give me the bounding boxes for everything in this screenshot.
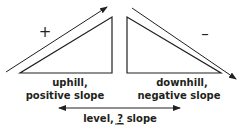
downhill-label-line2: negative slope <box>138 90 221 101</box>
uphill-label-line1: uphill, <box>52 77 87 88</box>
negative-sign: – <box>201 25 209 43</box>
uphill-triangle <box>20 17 112 73</box>
uphill-arrow <box>6 7 107 72</box>
level-label: level, ? slope <box>83 113 157 124</box>
slope-diagram: + – uphill, positive slope downhill, neg… <box>0 0 239 126</box>
downhill-arrow <box>132 8 236 79</box>
downhill-label-line1: downhill, <box>156 77 208 88</box>
uphill-label-line2: positive slope <box>26 90 105 101</box>
level-label-prefix: level, <box>83 113 117 124</box>
positive-sign: + <box>39 23 52 41</box>
level-label-suffix: slope <box>123 113 157 124</box>
